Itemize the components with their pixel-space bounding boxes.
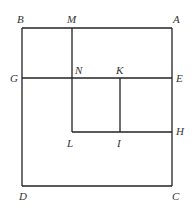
point-label-K: K	[116, 65, 123, 76]
point-label-B: B	[17, 14, 24, 25]
point-label-C: C	[172, 191, 179, 202]
point-label-D: D	[19, 191, 27, 202]
point-label-H: H	[176, 126, 184, 137]
point-label-G: G	[10, 73, 18, 84]
point-label-N: N	[75, 65, 82, 76]
point-label-M: M	[67, 14, 76, 25]
geometry-diagram	[0, 0, 196, 208]
point-label-L: L	[67, 138, 73, 149]
point-label-A: A	[173, 14, 180, 25]
point-label-E: E	[176, 73, 183, 84]
point-label-I: I	[117, 138, 121, 149]
